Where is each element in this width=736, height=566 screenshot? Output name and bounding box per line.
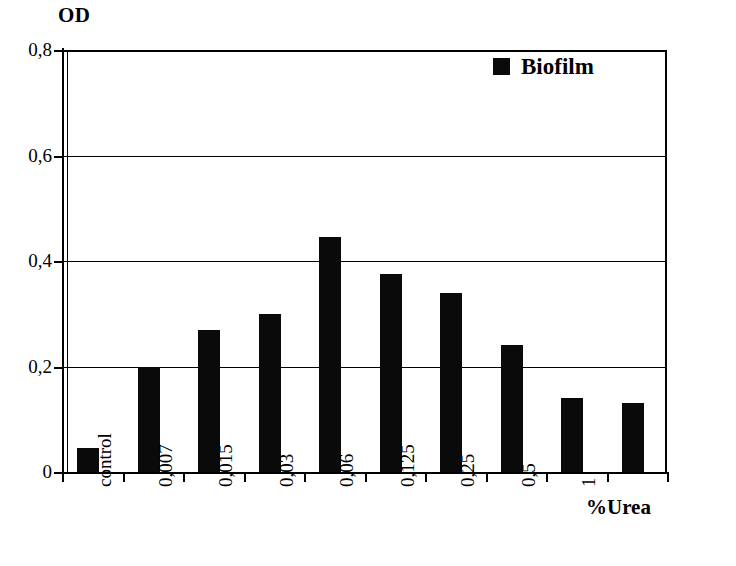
- x-axis-tick-mark: [244, 472, 246, 482]
- x-axis-tick-mark: [62, 472, 64, 482]
- legend-swatch-biofilm: [493, 58, 510, 75]
- x-axis-tick-label: 0,03: [277, 407, 296, 487]
- x-axis-tick-label: 1: [579, 407, 598, 487]
- y-axis-tick-label: 0: [2, 462, 52, 481]
- plot-area: [62, 50, 667, 472]
- x-axis-tick-mark: [365, 472, 367, 482]
- y-axis-tick-mark: [54, 367, 63, 369]
- legend: Biofilm: [493, 55, 594, 78]
- x-axis-title: %Urea: [586, 495, 651, 520]
- x-axis-tick-label: 0,125: [398, 407, 417, 487]
- y-axis-tick-label: 0,6: [2, 146, 52, 165]
- x-axis-tick-mark: [425, 472, 427, 482]
- x-axis-tick-mark: [667, 472, 669, 482]
- x-axis-tick-mark: [607, 472, 609, 482]
- y-axis-tick-mark: [54, 50, 63, 52]
- x-axis-tick-label: 0,5: [519, 407, 538, 487]
- bar: [622, 403, 644, 472]
- y-axis-tick-label: 0,4: [2, 251, 52, 270]
- x-axis-tick-label: 0,06: [337, 407, 356, 487]
- gridline: [62, 261, 667, 262]
- x-axis-tick-mark: [546, 472, 548, 482]
- x-axis-tick-mark: [304, 472, 306, 482]
- y-axis-tick-label: 0,2: [2, 357, 52, 376]
- x-axis-tick-label: 0,015: [216, 407, 235, 487]
- x-axis-tick-mark: [123, 472, 125, 482]
- x-axis-tick-mark: [486, 472, 488, 482]
- y-axis-tick-mark: [54, 261, 63, 263]
- bar-chart-figure: OD 00,20,40,60,8 control0,0070,0150,030,…: [0, 0, 736, 566]
- x-axis-tick-label: 0,007: [156, 407, 175, 487]
- y-axis-tick-mark: [54, 156, 63, 158]
- legend-label-biofilm: Biofilm: [521, 55, 594, 78]
- x-axis-tick-label: control: [95, 407, 114, 487]
- y-axis-title: OD: [58, 3, 91, 27]
- y-axis-tick-label: 0,8: [2, 40, 52, 59]
- gridline: [62, 156, 667, 157]
- x-axis-tick-label: 0,25: [458, 407, 477, 487]
- x-axis-tick-mark: [183, 472, 185, 482]
- plot-top-border: [62, 50, 667, 52]
